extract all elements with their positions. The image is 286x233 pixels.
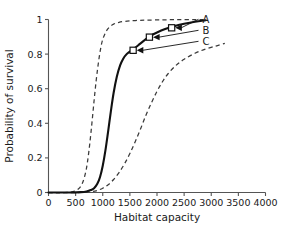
curve-b-solid xyxy=(49,20,206,192)
y-tick-label: 0 xyxy=(36,187,42,198)
x-tick-label: 3500 xyxy=(226,197,250,208)
x-tick-label: 4000 xyxy=(253,197,277,208)
series-label-c: C xyxy=(203,36,210,47)
data-marker-a xyxy=(169,25,175,31)
y-tick-label: 0.2 xyxy=(27,152,42,163)
x-tick-label: 2000 xyxy=(145,197,169,208)
data-marker-b xyxy=(146,34,152,40)
data-marker-c xyxy=(130,47,136,53)
series-label-b: B xyxy=(203,25,210,36)
x-axis-title: Habitat capacity xyxy=(114,211,200,223)
x-tick-label: 0 xyxy=(45,197,51,208)
x-tick-label: 1500 xyxy=(118,197,142,208)
y-tick-label: 1 xyxy=(36,14,42,25)
axes-group: 05001000150020002500300035004000 00.20.4… xyxy=(27,14,277,208)
arrow-head-c xyxy=(137,47,144,53)
axis-frame xyxy=(49,20,266,193)
series-group xyxy=(49,20,225,193)
curve-a-dashed xyxy=(49,20,206,193)
curve-c-dashed xyxy=(49,43,225,192)
y-axis-title: Probability of survival xyxy=(3,49,15,162)
leader-line-b xyxy=(159,30,198,37)
x-tick-label: 1000 xyxy=(91,197,115,208)
series-label-a: A xyxy=(203,14,210,25)
y-tick-label: 0.6 xyxy=(27,83,42,94)
survival-probability-chart: 05001000150020002500300035004000 00.20.4… xyxy=(0,0,286,233)
y-axis-tick-labels: 00.20.40.60.81 xyxy=(27,14,42,198)
x-tick-label: 2500 xyxy=(172,197,196,208)
chart-canvas: 05001000150020002500300035004000 00.20.4… xyxy=(0,0,286,233)
leader-line-c xyxy=(143,41,199,50)
x-axis-tick-labels: 05001000150020002500300035004000 xyxy=(45,197,277,208)
x-tick-label: 500 xyxy=(67,197,85,208)
y-tick-label: 0.4 xyxy=(27,118,42,129)
x-tick-label: 3000 xyxy=(199,197,223,208)
y-tick-label: 0.8 xyxy=(27,49,42,60)
